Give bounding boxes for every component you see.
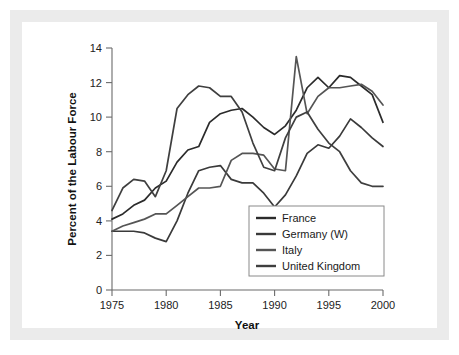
chart-legend: France Germany (W) Italy United Kingdom — [249, 206, 384, 276]
x-tick-label: 2000 — [371, 299, 395, 311]
legend-label-germany: Germany (W) — [282, 228, 348, 240]
y-tick-label: 2 — [96, 249, 102, 261]
y-tick-label: 14 — [90, 42, 102, 54]
y-axis-ticks: 0 2 4 6 8 10 12 14 — [90, 42, 112, 296]
x-tick-label: 1995 — [317, 299, 341, 311]
y-tick-label: 4 — [96, 215, 102, 227]
series-line-italy — [112, 57, 383, 232]
series-line-united-kingdom — [112, 86, 383, 210]
x-tick-label: 1985 — [208, 299, 232, 311]
legend-label-france: France — [282, 212, 316, 224]
y-tick-label: 0 — [96, 284, 102, 296]
y-tick-label: 8 — [96, 146, 102, 158]
y-tick-label: 6 — [96, 180, 102, 192]
page-root: 0 2 4 6 8 10 12 14 1975 1980 1985 1990 1… — [0, 0, 459, 355]
x-axis-ticks: 1975 1980 1985 1990 1995 2000 — [100, 290, 395, 311]
y-tick-label: 12 — [90, 77, 102, 89]
y-axis-title: Percent of the Labour Force — [66, 92, 78, 245]
line-chart: 0 2 4 6 8 10 12 14 1975 1980 1985 1990 1… — [0, 0, 459, 355]
x-tick-label: 1980 — [154, 299, 178, 311]
x-axis-title: Year — [235, 319, 260, 331]
legend-label-uk: United Kingdom — [282, 260, 360, 272]
y-tick-label: 10 — [90, 111, 102, 123]
x-tick-label: 1990 — [262, 299, 286, 311]
legend-label-italy: Italy — [282, 244, 303, 256]
series-line-france — [112, 76, 383, 219]
x-tick-label: 1975 — [100, 299, 124, 311]
